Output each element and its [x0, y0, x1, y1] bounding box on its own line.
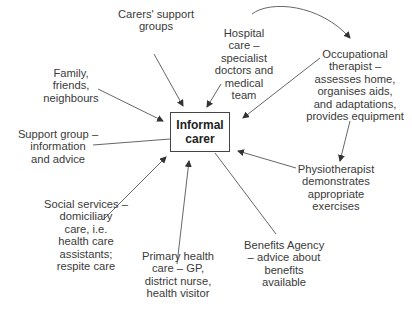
center-label-line-1: Informal [176, 118, 223, 132]
edge-support-group [93, 139, 170, 145]
edge-ot-physio [340, 121, 350, 161]
edge-physio [238, 151, 296, 168]
node-physiotherapist: Physiotherapist demonstrates appropriate… [296, 163, 376, 213]
node-benefits-agency: Benefits Agency – advice about benefits … [244, 239, 324, 289]
node-primary-health-care: Primary health care – GP, district nurse… [138, 250, 218, 300]
node-support-group: Support group – information and advice [16, 128, 100, 165]
node-carers-support-groups: Carers' support groups [112, 8, 200, 33]
node-family-friends: Family, friends, neighbours [40, 67, 102, 104]
informal-carer-box: Informal carer [170, 112, 230, 152]
edge-benefits [215, 153, 276, 234]
edge-carers-support [154, 54, 183, 106]
node-hospital-care: Hospital care – specialist doctors and m… [210, 27, 278, 101]
node-social-services: Social services – domiciliary care, i.e.… [42, 198, 130, 272]
edge-primary-health [177, 161, 189, 264]
edge-family [98, 89, 163, 121]
center-label-line-2: carer [185, 132, 214, 146]
node-occupational-therapist: Occupational therapist – assesses home, … [306, 48, 404, 122]
